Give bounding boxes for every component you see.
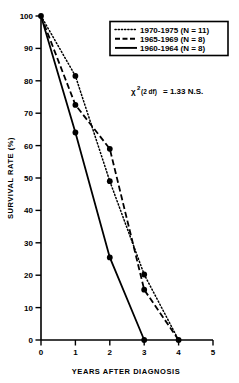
data-point-1960-y1: [73, 130, 79, 136]
legend-label-1965-1969[interactable]: 1965-1969 (N = 8): [140, 35, 205, 44]
data-point-1965-y3: [141, 287, 147, 293]
y-tick-label-10: 10: [24, 304, 33, 313]
y-tick-label-50: 50: [24, 174, 33, 183]
legend[interactable]: 1970-1975 (N = 11) 1965-1969 (N = 8) 196…: [110, 22, 228, 56]
y-tick-label-30: 30: [24, 239, 33, 248]
y-tick-label-20: 20: [24, 271, 33, 280]
y-axis-tick-labels: 0 10 20 30 40 50 60 70 80 90 100: [20, 12, 34, 345]
y-axis-title: SURVIVAL RATE (%): [6, 137, 15, 219]
x-tick-label-2: 2: [108, 348, 113, 357]
y-tick-label-70: 70: [24, 109, 33, 118]
data-point-1970-y1: [73, 73, 79, 79]
x-axis-title: YEARS AFTER DIAGNOSIS: [72, 367, 180, 376]
x-axis-ticks: [41, 340, 213, 346]
y-tick-label-60: 60: [24, 142, 33, 151]
legend-label-1970-1975[interactable]: 1970-1975 (N = 11): [140, 26, 209, 35]
x-tick-label-3: 3: [142, 348, 147, 357]
data-point-origin: [38, 13, 44, 19]
x-tick-label-1: 1: [73, 348, 78, 357]
x-tick-label-0: 0: [39, 348, 44, 357]
chart-canvas: 0 10 20 30 40 50 60 70 80 90 100 0 1 2 3: [0, 0, 239, 383]
chi-df: (2 df): [141, 88, 157, 96]
chi-square-annotation: χ 2 (2 df) = 1.33 N.S.: [131, 85, 203, 97]
data-point-1960-y3-zero: [141, 337, 147, 343]
series-line-1965-1969: [41, 16, 179, 340]
chi-value: = 1.33 N.S.: [163, 87, 203, 96]
y-tick-label-90: 90: [24, 44, 33, 53]
y-tick-label-100: 100: [20, 12, 34, 21]
legend-label-1960-1964[interactable]: 1960-1964 (N = 8): [140, 44, 205, 53]
y-tick-label-80: 80: [24, 77, 33, 86]
data-point-1970-y2: [107, 178, 113, 184]
series-line-1970-1975: [41, 16, 179, 340]
series-line-1960-1964: [41, 16, 144, 340]
survival-chart-figure: 0 10 20 30 40 50 60 70 80 90 100 0 1 2 3: [0, 0, 239, 383]
chi-symbol: χ: [131, 87, 136, 96]
data-point-1965-y2: [107, 146, 113, 152]
x-tick-label-4: 4: [176, 348, 181, 357]
data-point-1965-y1: [73, 102, 79, 108]
y-axis-ticks: [36, 16, 42, 340]
x-tick-label-5: 5: [211, 348, 216, 357]
data-point-y4-zero: [176, 337, 182, 343]
data-point-1970-y3: [141, 272, 147, 278]
data-point-1960-y2: [107, 255, 113, 261]
x-axis-tick-labels: 0 1 2 3 4 5: [39, 348, 216, 357]
y-tick-label-0: 0: [29, 336, 34, 345]
y-tick-label-40: 40: [24, 206, 33, 215]
